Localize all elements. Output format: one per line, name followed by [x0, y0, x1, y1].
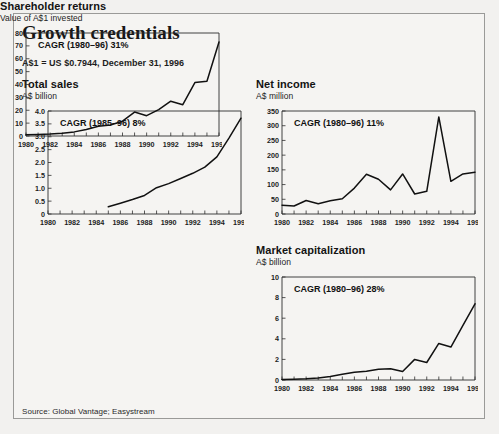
x-tick-label: 1990: [395, 384, 411, 393]
chart-panel-shareholder-returns: Shareholder returns Value of A$1 investe…: [0, 0, 222, 158]
x-tick-label: 1994: [209, 218, 225, 227]
y-tick-label: 1.5: [35, 171, 45, 180]
y-tick-label: 0.5: [35, 197, 45, 206]
x-tick-label: 1988: [371, 218, 387, 227]
y-tick-label: 20: [15, 106, 23, 115]
plot-svg-net-income: 0501001502002503003501980198219841986198…: [256, 104, 478, 236]
x-tick-label: 1990: [161, 218, 177, 227]
x-tick-label: 1980: [274, 218, 290, 227]
x-tick-label: 1984: [66, 140, 82, 149]
x-tick-label: 1996: [467, 218, 478, 227]
series-line-market-capitalization: [282, 304, 475, 380]
y-tick-label: 4: [275, 334, 279, 343]
y-tick-label: 10: [271, 273, 279, 282]
y-tick-label: 80: [15, 29, 23, 38]
plot-svg-market-capitalization: 0246810198019821984198619881990199219941…: [256, 270, 478, 402]
cagr-annotation: CAGR (1980–96) 11%: [294, 118, 384, 128]
y-tick-label: 100: [267, 180, 279, 189]
chart-subtitle-shareholder-returns: Value of A$1 invested: [0, 13, 222, 24]
chart-panel-net-income: Net income A$ million 050100150200250300…: [256, 78, 478, 236]
y-tick-label: 50: [271, 195, 279, 204]
x-tick-label: 1982: [42, 140, 58, 149]
y-tick-label: 250: [267, 136, 279, 145]
x-tick-label: 1992: [185, 218, 201, 227]
chart-title-market-capitalization: Market capitalization: [256, 244, 478, 257]
x-tick-label: 1988: [137, 218, 153, 227]
series-line-shareholder-returns: [26, 42, 219, 135]
x-tick-label: 1982: [298, 218, 314, 227]
y-tick-label: 1.0: [35, 184, 45, 193]
y-tick-label: 150: [267, 165, 279, 174]
y-tick-label: 300: [267, 121, 279, 130]
y-tick-label: 8: [275, 293, 279, 302]
x-tick-label: 1988: [371, 384, 387, 393]
x-tick-label: 1986: [346, 218, 362, 227]
x-tick-label: 1986: [90, 140, 106, 149]
y-tick-label: 6: [275, 314, 279, 323]
x-tick-label: 1980: [274, 384, 290, 393]
x-tick-label: 1992: [419, 218, 435, 227]
chart-title-shareholder-returns: Shareholder returns: [0, 0, 222, 13]
y-tick-label: 70: [15, 41, 23, 50]
x-tick-label: 1996: [233, 218, 244, 227]
plot-shareholder-returns: 0102030405060708019801982198419861988199…: [0, 26, 222, 158]
y-tick-label: 10: [15, 119, 23, 128]
x-tick-label: 1982: [298, 384, 314, 393]
x-tick-label: 1986: [346, 384, 362, 393]
x-tick-label: 1980: [18, 140, 34, 149]
chart-subtitle-market-capitalization: A$ billion: [256, 257, 478, 268]
x-tick-label: 1990: [395, 218, 411, 227]
exhibit-canvas: Growth credentials A$1 = US $0.7944, Dec…: [0, 0, 499, 434]
x-tick-label: 1990: [139, 140, 155, 149]
x-tick-label: 1996: [467, 384, 478, 393]
y-tick-label: 200: [267, 151, 279, 160]
series-line-net-income: [282, 117, 475, 206]
y-tick-label: 40: [15, 80, 23, 89]
x-tick-label: 1994: [187, 140, 203, 149]
cagr-annotation: CAGR (1980–96) 28%: [294, 284, 385, 294]
x-tick-label: 1992: [419, 384, 435, 393]
y-tick-label: 30: [15, 93, 23, 102]
x-tick-label: 1994: [443, 384, 459, 393]
x-tick-label: 1992: [163, 140, 179, 149]
x-tick-label: 1982: [64, 218, 80, 227]
x-tick-label: 1996: [211, 140, 222, 149]
chart-title-net-income: Net income: [256, 78, 478, 91]
plot-svg-shareholder-returns: 0102030405060708019801982198419861988199…: [0, 26, 222, 158]
x-tick-label: 1980: [40, 218, 56, 227]
y-tick-label: 2: [275, 355, 279, 364]
chart-panel-market-capitalization: Market capitalization A$ billion 0246810…: [256, 244, 478, 402]
y-tick-label: 350: [267, 107, 279, 116]
y-tick-label: 2.0: [35, 158, 45, 167]
y-tick-label: 50: [15, 67, 23, 76]
source-note: Source: Global Vantage; Easystream: [22, 407, 155, 416]
x-tick-label: 1984: [88, 218, 104, 227]
y-tick-label: 60: [15, 54, 23, 63]
x-tick-label: 1994: [443, 218, 459, 227]
plot-net-income: 0501001502002503003501980198219841986198…: [256, 104, 478, 236]
plot-market-capitalization: 0246810198019821984198619881990199219941…: [256, 270, 478, 402]
x-tick-label: 1984: [322, 218, 338, 227]
chart-subtitle-net-income: A$ million: [256, 91, 478, 102]
x-tick-label: 1988: [115, 140, 131, 149]
x-tick-label: 1986: [112, 218, 128, 227]
x-tick-label: 1984: [322, 384, 338, 393]
cagr-annotation: CAGR (1980–96) 31%: [38, 40, 129, 50]
